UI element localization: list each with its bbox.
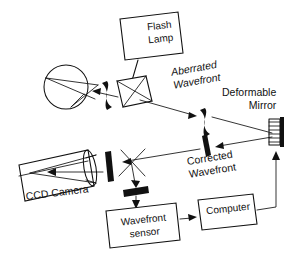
beamsplitter-x — [119, 149, 145, 176]
beam-aberrated-to-deformable-mirror — [212, 117, 272, 133]
deformable-mirror-label: Deformable Mirror — [222, 86, 276, 112]
beam-beamsplitter-to-fold-mirror-sensor — [131, 161, 140, 188]
beam-beamsplitter-to-eye — [92, 88, 118, 97]
flash-lamp-label: Flash Lamp — [134, 16, 186, 47]
signal-sensor-to-computer — [180, 214, 197, 221]
fold-mirror-camera-icon — [105, 151, 114, 182]
eye-symbol — [44, 65, 98, 109]
adaptive-optics-diagram: Flash Lamp Aberrated Wavefront Deformabl… — [0, 0, 307, 254]
beam-deformable-mirror-to-corrected — [215, 137, 272, 149]
deformable-mirror — [269, 117, 284, 147]
beam-beamsplitter-to-aberrated — [140, 100, 197, 119]
signal-computer-to-deformable-mirror — [257, 151, 280, 210]
aberrated-wavefront-marker-2-icon — [200, 108, 210, 137]
